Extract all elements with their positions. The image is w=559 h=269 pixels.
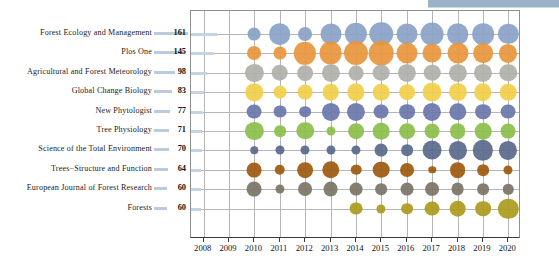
bubble-marker <box>423 83 442 102</box>
bubble-marker <box>294 42 316 64</box>
top-accent-bar <box>428 0 559 8</box>
bubble-marker <box>323 182 338 197</box>
bubble-marker <box>272 65 289 82</box>
journal-count-row: 64 <box>152 163 190 175</box>
bubble-marker <box>344 41 368 65</box>
x-axis-tick <box>507 238 508 242</box>
bubble-marker <box>246 83 263 100</box>
x-axis-tick <box>482 238 483 242</box>
bubble-marker <box>448 141 466 159</box>
bubble-marker <box>447 43 468 64</box>
journal-count-value: 60 <box>152 202 186 214</box>
journal-count-row: 98 <box>152 66 190 78</box>
bubble-marker <box>424 65 441 82</box>
bubble-marker <box>500 84 517 101</box>
row-leader-bar <box>191 149 202 152</box>
bubble-marker <box>369 41 394 66</box>
bubble-marker <box>450 123 466 139</box>
x-axis-tick <box>355 238 356 242</box>
bubble-marker <box>475 123 492 140</box>
bubble-marker <box>448 83 466 101</box>
bubble-marker <box>499 141 517 159</box>
journal-count-row: 161 <box>152 27 190 39</box>
bubble-marker <box>474 83 491 100</box>
bubble-marker <box>347 103 365 121</box>
bubble-marker <box>423 103 441 121</box>
bubble-marker <box>247 162 262 177</box>
bubble-marker <box>275 146 284 155</box>
journal-count-row: 60 <box>152 202 190 214</box>
bubble-marker <box>326 146 335 155</box>
journal-label: Forest Ecology and Management <box>0 28 152 38</box>
journal-count-value: 60 <box>152 182 186 194</box>
bubble-marker <box>504 165 513 174</box>
bubble-marker <box>400 163 414 177</box>
bubble-marker <box>475 201 491 217</box>
journal-label: Global Change Biology <box>0 86 152 96</box>
journal-label: Forests <box>0 203 152 213</box>
bubble-marker <box>423 44 442 63</box>
bubble-chart-figure: Forest Ecology and ManagementPlos OneAgr… <box>0 0 559 269</box>
bubble-marker <box>373 65 390 82</box>
bubble-marker <box>377 204 386 213</box>
bubble-marker <box>451 183 464 196</box>
bubble-marker <box>349 65 364 80</box>
bubble-marker <box>501 104 516 119</box>
bubble-marker <box>374 104 389 119</box>
bubble-marker <box>376 183 388 195</box>
row-leader-bar <box>191 188 201 191</box>
row-leader-bar <box>191 208 201 211</box>
bubble-marker <box>498 198 518 218</box>
bubble-marker <box>473 44 493 64</box>
journal-count-value: 70 <box>152 143 186 155</box>
bubble-marker <box>450 162 466 178</box>
bubble-marker <box>503 184 514 195</box>
bubble-marker <box>274 125 286 137</box>
bubble-marker <box>428 166 435 173</box>
journal-label-column: Forest Ecology and ManagementPlos OneAgr… <box>0 26 152 230</box>
row-leader-bar <box>191 33 217 36</box>
x-axis-tick-label: 2020 <box>487 243 527 253</box>
journal-count-value: 71 <box>152 124 186 136</box>
vertical-gridline <box>229 11 230 237</box>
bubble-marker <box>396 43 417 64</box>
bubble-marker <box>347 83 364 100</box>
bubble-marker <box>401 145 413 157</box>
row-leader-bar <box>191 111 203 114</box>
bubble-marker <box>245 64 263 82</box>
bubble-marker <box>399 104 415 120</box>
bubble-marker <box>247 104 262 119</box>
row-leader-bar <box>191 52 214 55</box>
bubble-marker <box>298 85 313 100</box>
journal-label: Trees−Structure and Function <box>0 164 152 174</box>
bubble-marker <box>247 182 262 197</box>
bubble-marker <box>275 185 284 194</box>
bubble-marker <box>298 182 312 196</box>
bubble-marker <box>498 24 518 44</box>
row-leader-bar <box>191 169 201 172</box>
journal-label: Plos One <box>0 47 152 57</box>
bubble-marker <box>322 64 340 82</box>
bubble-marker <box>399 84 415 100</box>
plot-area <box>190 10 520 238</box>
bubble-marker <box>326 126 335 135</box>
x-axis-tick <box>253 238 254 242</box>
journal-count-row: 77 <box>152 105 190 117</box>
journal-count-row: 83 <box>152 85 190 97</box>
x-axis-tick <box>330 238 331 242</box>
journal-label: New Phytologist <box>0 106 152 116</box>
journal-count-value: 77 <box>152 105 186 117</box>
bubble-marker <box>298 27 312 41</box>
bubble-marker <box>351 146 360 155</box>
bubble-marker <box>400 183 413 196</box>
row-leader-bar <box>191 130 202 133</box>
bubble-marker <box>322 161 339 178</box>
x-axis-tick <box>279 238 280 242</box>
journal-label: Tree Physiology <box>0 125 152 135</box>
bubble-marker <box>373 123 390 140</box>
x-axis-tick <box>457 238 458 242</box>
vertical-gridline <box>204 11 205 237</box>
bubble-marker <box>348 123 364 139</box>
bubble-marker <box>301 146 310 155</box>
bubble-marker <box>423 141 442 160</box>
